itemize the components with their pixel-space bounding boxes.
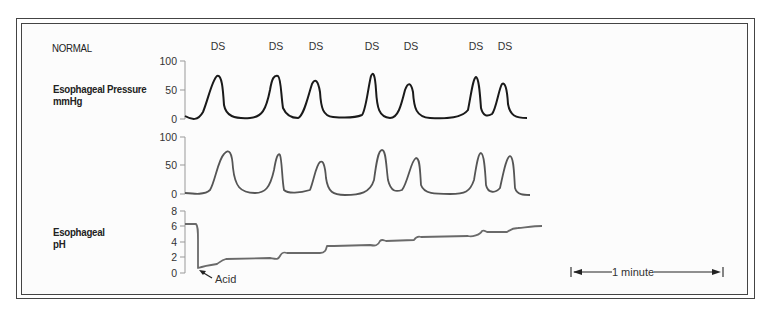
lower-pressure-axis (180, 137, 185, 194)
manometry-chart: DS DS DS DS DS DS DS 100500 100500 86420… (0, 0, 758, 316)
scale-bar-label: 1 minute (612, 266, 654, 278)
upper-pressure-axis (180, 61, 185, 119)
lower-pressure-trace (185, 150, 530, 195)
svg-text:8: 8 (171, 205, 177, 217)
ds-marker: DS (365, 40, 380, 52)
ph-axis (180, 211, 185, 273)
svg-text:100: 100 (159, 131, 177, 143)
svg-text:0: 0 (171, 267, 177, 279)
lower-axis-ticks: 100500 (159, 131, 177, 200)
svg-text:100: 100 (159, 55, 177, 67)
ph-trace (185, 224, 542, 268)
ds-markers: DS DS DS DS DS DS DS (211, 40, 513, 52)
ds-marker: DS (404, 40, 419, 52)
upper-axis-ticks: 100500 (159, 55, 177, 125)
svg-text:2: 2 (171, 251, 177, 263)
upper-pressure-trace (185, 74, 527, 119)
ds-marker: DS (269, 40, 284, 52)
svg-text:50: 50 (165, 159, 177, 171)
ds-marker: DS (469, 40, 484, 52)
ph-axis-ticks: 86420 (171, 205, 177, 279)
svg-text:0: 0 (171, 188, 177, 200)
ds-marker: DS (211, 40, 226, 52)
svg-text:50: 50 (165, 84, 177, 96)
acid-arrow (199, 270, 212, 278)
acid-annotation: Acid (215, 273, 236, 285)
svg-text:6: 6 (171, 220, 177, 232)
ds-marker: DS (498, 40, 513, 52)
ds-marker: DS (309, 40, 324, 52)
svg-text:4: 4 (171, 236, 177, 248)
svg-text:0: 0 (171, 113, 177, 125)
